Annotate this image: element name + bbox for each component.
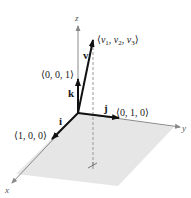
y-axis-label: y	[182, 124, 186, 133]
v-close-bracket: ⟩	[135, 34, 139, 45]
j-label: j	[104, 103, 108, 114]
v-components-label: ⟨v1, v2, v3⟩	[97, 35, 139, 47]
i-label: i	[59, 116, 62, 127]
k-label: k	[68, 88, 74, 99]
diagram-canvas	[0, 0, 191, 198]
z-axis-label: z	[75, 14, 79, 23]
vector-diagram: z y x v ⟨v1, v2, v3⟩ ⟨0, 0, 1⟩ k j ⟨0, 1…	[0, 0, 191, 198]
j-coords-label: ⟨0, 1, 0⟩	[116, 108, 149, 118]
v-label: v	[83, 50, 89, 61]
k-coords-label: ⟨0, 0, 1⟩	[41, 70, 74, 80]
xy-plane	[16, 113, 174, 186]
x-axis-label: x	[5, 186, 9, 195]
i-coords-label: ⟨1, 0, 0⟩	[14, 131, 47, 141]
